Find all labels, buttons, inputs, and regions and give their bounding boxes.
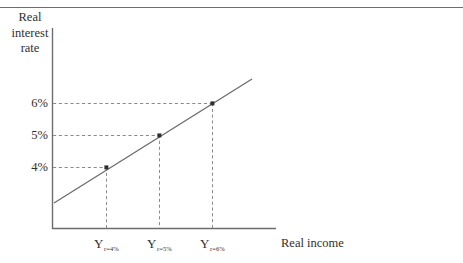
figure-container: Real interest rate 6% 5% 4% Yr=4% Yr=5% …: [0, 0, 463, 263]
x-tick-subscript-y-r5pct: r=5%: [157, 245, 172, 252]
data-point-marker-5pct: [157, 133, 161, 137]
x-tick-label-y-r5pct: Yr=5%: [147, 237, 171, 250]
x-tick-subscript-y-r4pct: r=4%: [104, 245, 119, 252]
demand-curve-line: [54, 79, 252, 203]
x-tick-label-y-r4pct: Yr=4%: [94, 237, 118, 250]
x-tick-base-y-r5pct: Y: [147, 236, 156, 251]
x-axis-title: Real income: [281, 236, 344, 250]
data-point-marker-6pct: [210, 101, 214, 105]
plot-area: [0, 0, 463, 263]
x-tick-base-y-r6pct: Y: [200, 236, 209, 251]
x-tick-base-y-r4pct: Y: [94, 236, 103, 251]
data-point-marker-4pct: [104, 165, 108, 169]
x-tick-subscript-y-r6pct: r=6%: [210, 245, 225, 252]
x-tick-label-y-r6pct: Yr=6%: [200, 237, 224, 250]
